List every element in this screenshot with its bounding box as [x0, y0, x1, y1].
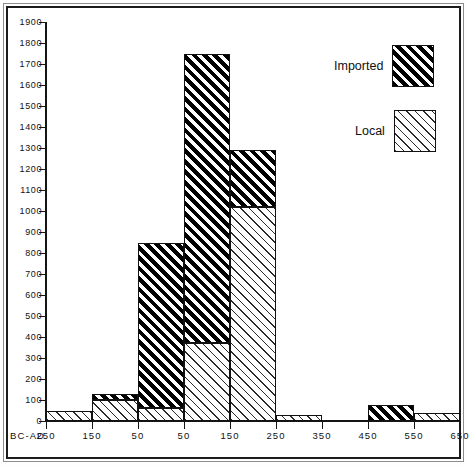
y-tick-label: 1200: [20, 164, 42, 174]
bar-segment-imported-4: [230, 150, 276, 207]
figure-histogram: 0100200300400500600700800900100011001200…: [0, 0, 469, 468]
y-tick-label: 200: [25, 374, 42, 384]
bar-segment-local-3: [184, 343, 230, 421]
x-tick-label-1: 150: [82, 430, 101, 441]
y-tick-label: 1000: [20, 206, 42, 216]
x-tick-label-7: 450: [358, 430, 377, 441]
bar-segment-local-2: [138, 408, 184, 421]
bar-segment-local-1: [92, 400, 138, 421]
x-tick-mark-450-7: [368, 422, 369, 429]
x-tick-mark-550-8: [414, 422, 415, 429]
y-tick-label: 1800: [20, 38, 42, 48]
x-tick-mark-50-3: [184, 422, 185, 429]
x-axis-prefix-label: BC-AD: [10, 430, 45, 441]
x-tick-label-9: 650: [450, 430, 469, 441]
x-tick-label-6: 350: [312, 430, 331, 441]
x-tick-label-8: 550: [404, 430, 423, 441]
bar-segment-local-4: [230, 207, 276, 421]
y-tick-label: 500: [25, 311, 42, 321]
y-tick-label: 100: [25, 395, 42, 405]
y-tick-label: 300: [25, 353, 42, 363]
y-tick-label: 700: [25, 269, 42, 279]
bar-segment-imported-7: [368, 405, 414, 421]
x-tick-mark-250-5: [276, 422, 277, 429]
y-tick-label: 1300: [20, 143, 42, 153]
y-tick-label: 1700: [20, 59, 42, 69]
y-tick-label: 1100: [20, 185, 42, 195]
x-tick-mark-350-6: [322, 422, 323, 429]
y-tick-label: 400: [25, 332, 42, 342]
x-tick-mark-150-4: [230, 422, 231, 429]
y-tick-label: 600: [25, 290, 42, 300]
x-tick-label-5: 250: [266, 430, 285, 441]
bar-segment-imported-3: [184, 54, 230, 344]
y-tick-label: 1500: [20, 101, 42, 111]
x-tick-mark-250-0: [46, 422, 47, 429]
y-tick-label: 1400: [20, 122, 42, 132]
y-tick-label: 0: [36, 416, 42, 426]
y-tick-label: 1600: [20, 80, 42, 90]
x-tick-label-2: 50: [132, 430, 145, 441]
bar-segment-local-5: [276, 415, 322, 421]
x-tick-mark-150-1: [92, 422, 93, 429]
x-tick-mark-650-9: [460, 422, 461, 429]
y-tick-label: 900: [25, 227, 42, 237]
y-tick-label: 800: [25, 248, 42, 258]
bar-segment-local-8: [414, 413, 460, 421]
x-tick-label-4: 150: [220, 430, 239, 441]
legend-swatch-imported: [392, 45, 434, 87]
bar-segment-imported-2: [138, 243, 184, 409]
legend-swatch-local: [394, 110, 436, 152]
y-tick-label: 1900: [20, 17, 42, 27]
x-tick-label-3: 50: [178, 430, 191, 441]
x-tick-mark-50-2: [138, 422, 139, 429]
legend-label-imported: Imported: [334, 59, 383, 73]
bar-segment-local-0: [46, 411, 92, 422]
legend-label-local: Local: [355, 124, 385, 138]
bar-segment-imported-1: [92, 394, 138, 400]
